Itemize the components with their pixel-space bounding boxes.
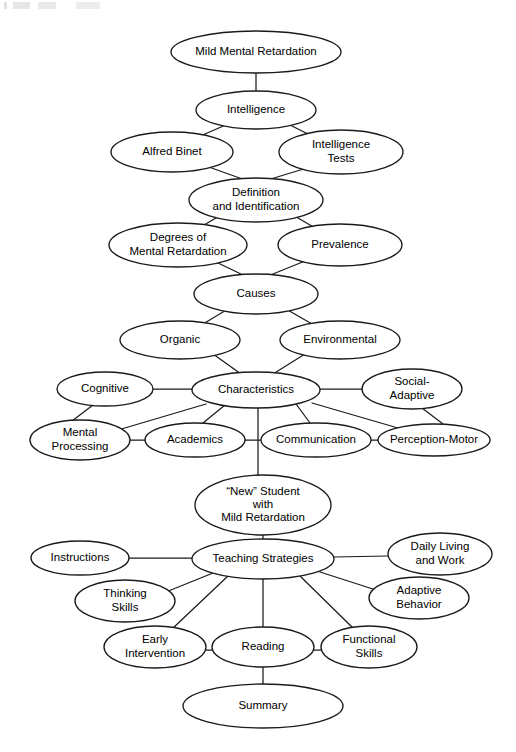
node-label-causes: Causes: [237, 287, 276, 299]
node-label-environmental: Environmental: [303, 333, 377, 345]
node-label-mental-processing: Processing: [52, 440, 109, 452]
node-degrees-of-mental-retardation[interactable]: Degrees ofMental Retardation: [109, 223, 247, 267]
node-intelligence[interactable]: Intelligence: [196, 91, 316, 129]
node-alfred-binet[interactable]: Alfred Binet: [111, 132, 233, 172]
node-definition-identification[interactable]: Definitionand Identification: [189, 178, 323, 222]
node-label-characteristics: Characteristics: [218, 383, 294, 395]
node-organic[interactable]: Organic: [120, 321, 240, 359]
edge-teaching-strategies-to-functional-skills: [300, 576, 354, 629]
node-label-communication: Communication: [276, 433, 356, 445]
node-daily-living-and-work[interactable]: Daily Livingand Work: [388, 533, 492, 575]
edge-teaching-strategies-to-thinking-skills: [166, 573, 213, 592]
edge-teaching-strategies-to-adaptive-behavior: [320, 572, 376, 590]
edge-teaching-strategies-to-daily-living-and-work: [334, 556, 388, 557]
node-instructions[interactable]: Instructions: [31, 541, 129, 575]
node-label-instructions: Instructions: [51, 551, 110, 563]
edge-social-adaptive-to-perception-motor: [422, 408, 443, 424]
node-label-new-student: “New” Student: [226, 485, 300, 497]
node-label-academics: Academics: [167, 433, 223, 445]
node-label-new-student: with: [252, 498, 273, 510]
node-reading[interactable]: Reading: [212, 627, 314, 667]
node-characteristics[interactable]: Characteristics: [192, 372, 320, 408]
edge-prevalence-to-causes: [268, 261, 305, 276]
node-label-intelligence: Intelligence: [227, 103, 285, 115]
node-label-adaptive-behavior: Behavior: [396, 598, 442, 610]
node-label-perception-motor: Perception-Motor: [390, 433, 478, 445]
node-intelligence-tests[interactable]: IntelligenceTests: [279, 130, 403, 174]
node-label-social-adaptive: Social-: [394, 375, 429, 387]
node-social-adaptive[interactable]: Social-Adaptive: [362, 369, 462, 409]
node-environmental[interactable]: Environmental: [280, 321, 400, 359]
node-label-summary: Summary: [238, 699, 287, 711]
edge-characteristics-to-academics: [203, 405, 225, 423]
node-label-organic: Organic: [160, 333, 201, 345]
node-label-teaching-strategies: Teaching Strategies: [212, 552, 313, 564]
edge-environmental-to-characteristics: [273, 354, 305, 374]
node-teaching-strategies[interactable]: Teaching Strategies: [192, 539, 334, 579]
node-early-intervention[interactable]: EarlyIntervention: [104, 626, 206, 668]
node-label-prevalence: Prevalence: [311, 238, 369, 250]
edge-teaching-strategies-to-early-intervention: [172, 576, 228, 629]
node-label-early-intervention: Intervention: [125, 647, 185, 659]
node-label-functional-skills: Functional: [342, 633, 395, 645]
node-thinking-skills[interactable]: ThinkingSkills: [75, 580, 175, 622]
node-label-reading: Reading: [242, 640, 285, 652]
node-prevalence[interactable]: Prevalence: [278, 224, 402, 266]
node-label-thinking-skills: Thinking: [103, 587, 146, 599]
node-label-adaptive-behavior: Adaptive: [397, 584, 442, 596]
node-label-new-student: Mild Retardation: [221, 511, 305, 523]
node-label-intelligence-tests: Tests: [328, 152, 355, 164]
node-label-functional-skills: Skills: [356, 647, 383, 659]
node-label-degrees-of-mental-retardation: Degrees of: [150, 231, 207, 243]
edge-organic-to-characteristics: [213, 354, 241, 374]
node-label-mental-processing: Mental: [63, 426, 98, 438]
edge-cognitive-to-mental-processing: [72, 405, 93, 421]
node-academics[interactable]: Academics: [145, 423, 245, 457]
node-label-mild-mental-retardation: Mild Mental Retardation: [195, 45, 316, 57]
node-mental-processing[interactable]: MentalProcessing: [30, 420, 130, 460]
node-label-degrees-of-mental-retardation: Mental Retardation: [129, 245, 226, 257]
node-label-early-intervention: Early: [142, 633, 168, 645]
node-summary[interactable]: Summary: [183, 684, 343, 728]
node-cognitive[interactable]: Cognitive: [57, 372, 153, 406]
node-layer: Mild Mental RetardationIntelligenceAlfre…: [30, 31, 492, 728]
node-adaptive-behavior[interactable]: AdaptiveBehavior: [369, 577, 469, 619]
node-label-thinking-skills: Skills: [112, 601, 139, 613]
node-label-daily-living-and-work: and Work: [415, 554, 464, 566]
node-label-social-adaptive: Adaptive: [390, 389, 435, 401]
node-label-definition-identification: Definition: [232, 186, 280, 198]
node-new-student[interactable]: “New” StudentwithMild Retardation: [195, 475, 331, 535]
node-perception-motor[interactable]: Perception-Motor: [378, 424, 490, 456]
node-causes[interactable]: Causes: [194, 274, 318, 314]
node-label-intelligence-tests: Intelligence: [312, 138, 370, 150]
edge-characteristics-to-communication: [296, 404, 310, 423]
concept-map-canvas: Mild Mental RetardationIntelligenceAlfre…: [0, 0, 516, 752]
node-label-alfred-binet: Alfred Binet: [142, 145, 202, 157]
node-mild-mental-retardation[interactable]: Mild Mental Retardation: [171, 31, 341, 73]
node-functional-skills[interactable]: FunctionalSkills: [321, 626, 417, 668]
node-label-cognitive: Cognitive: [81, 382, 129, 394]
concept-map-diagram: Mild Mental RetardationIntelligenceAlfre…: [0, 0, 516, 752]
node-communication[interactable]: Communication: [261, 423, 371, 457]
node-label-definition-identification: and Identification: [213, 200, 300, 212]
node-label-daily-living-and-work: Daily Living: [411, 540, 470, 552]
